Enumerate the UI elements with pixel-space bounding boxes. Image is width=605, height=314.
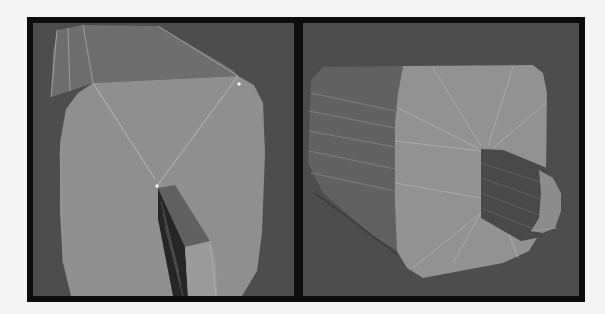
mesh-render-left xyxy=(33,23,294,296)
mesh-side-face xyxy=(308,66,403,253)
selected-vertex[interactable] xyxy=(237,82,241,86)
selected-vertex[interactable] xyxy=(155,184,159,188)
viewport-left[interactable] xyxy=(33,23,294,296)
mesh-render-right xyxy=(303,23,579,296)
viewport-frame xyxy=(27,17,585,302)
mesh-front-face xyxy=(60,76,265,296)
viewport-right[interactable] xyxy=(303,23,579,296)
notch-front-face xyxy=(185,241,217,296)
